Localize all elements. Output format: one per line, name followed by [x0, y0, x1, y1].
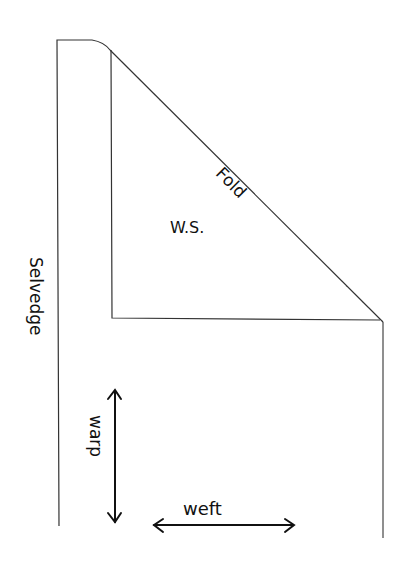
- selvedge-label: Selvedge: [26, 257, 46, 336]
- warp-arrow: [108, 390, 121, 522]
- wrong-side-label: W.S.: [170, 218, 204, 237]
- warp-label: warp: [86, 415, 106, 457]
- weft-arrow: [154, 519, 294, 532]
- weft-label: weft: [183, 498, 222, 519]
- fabric-fold-diagram: [0, 0, 410, 569]
- wrong-side-stipple: [122, 51, 381, 302]
